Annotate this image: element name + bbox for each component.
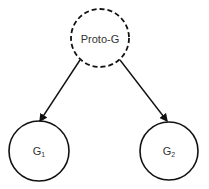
node-g2-text: G	[163, 145, 172, 157]
node-g1-subscript: 1	[41, 151, 45, 158]
node-g1-text: G	[33, 145, 42, 157]
node-proto-g-text: Proto-G	[81, 33, 120, 45]
node-g1-label: G1	[33, 145, 45, 158]
node-g2-subscript: 2	[171, 151, 175, 158]
node-g2-label: G2	[163, 145, 175, 158]
diagram-graphics	[0, 0, 209, 189]
edge-proto-g-to-g2	[120, 60, 167, 121]
diagram-canvas: Proto-G G1 G2	[0, 0, 209, 189]
edge-proto-g-to-g1	[40, 60, 80, 121]
node-proto-g-label: Proto-G	[81, 33, 120, 45]
